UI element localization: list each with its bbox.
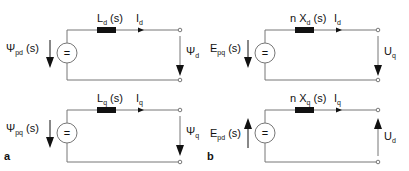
terminal [376,108,380,112]
terminal [178,160,182,164]
source-label: Epd (s) [210,127,241,142]
current-label: Id [334,12,341,26]
output-arrow-down-icon [176,145,184,156]
current-label: Iq [334,92,341,107]
current-arrow-icon [336,28,342,33]
wire-bottom [265,143,378,162]
wire-bottom [67,143,180,162]
inductor-block [295,27,314,33]
impedance-label: Ld (s) [97,12,123,26]
panel-label-a: a [4,150,11,162]
terminal [178,108,182,112]
inductor-block [97,27,116,33]
impedance-label: n Xd (s) [290,12,326,26]
current-arrow-icon [138,28,144,33]
current-label: Iq [136,92,143,107]
output-arrow-down-icon [374,65,382,76]
wire-top [265,110,378,123]
source-symbol: = [262,127,268,139]
output-label: Ud [384,130,396,144]
output-arrow-down-icon [176,65,184,76]
source-symbol: = [64,47,70,59]
circuit-a-q: = Ψpq (s) Lq (s) Iq Ψq [6,92,199,164]
wire-top [265,30,378,43]
wire-bottom [265,63,378,80]
source-label: Epq (s) [210,42,241,57]
inductor-block [97,107,116,113]
equivalent-circuit-diagram: = Ψpd (s) Ld (s) Id Ψd = Ψpq (s) Lq (s) … [0,0,409,171]
source-arrow-down-icon [46,137,54,148]
source-arrow-down-icon [46,57,54,68]
wire-top [67,30,180,43]
source-label: Ψpd (s) [6,42,39,57]
inductor-block [295,107,314,113]
impedance-label: Lq (s) [97,92,123,107]
current-arrow-icon [138,108,144,113]
terminal [376,28,380,32]
output-label: Ψd [186,45,199,59]
current-arrow-icon [336,108,342,113]
circuit-b-q: = Epd (s) n Xq (s) Iq Ud [210,92,396,164]
terminal [376,160,380,164]
source-label: Ψpq (s) [6,122,39,137]
terminal [178,78,182,82]
current-label: Id [136,12,143,26]
output-label: Ψq [186,125,199,140]
terminal [376,78,380,82]
panel-label-b: b [207,150,214,162]
output-label: Uq [384,45,396,60]
source-symbol: = [262,47,268,59]
impedance-label: n Xq (s) [290,92,326,107]
output-arrow-up-icon [374,118,382,129]
source-arrow-up-icon [244,118,252,129]
terminal [178,28,182,32]
source-symbol: = [64,127,70,139]
circuit-a-d: = Ψpd (s) Ld (s) Id Ψd [6,12,199,82]
circuit-b-d: = Epq (s) n Xd (s) Id Uq [210,12,396,82]
wire-bottom [67,63,180,80]
source-arrow-down-icon [244,57,252,68]
wire-top [67,110,180,123]
